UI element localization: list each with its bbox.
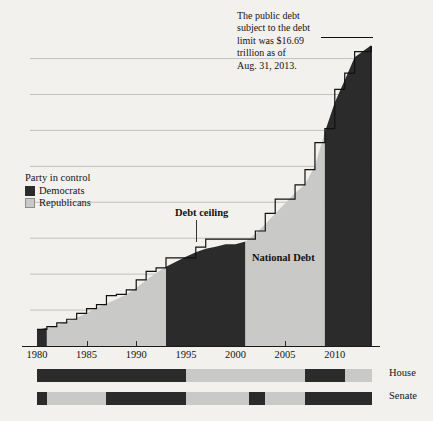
x-axis-tick	[37, 341, 38, 346]
senate-control-bar-label: Senate	[389, 390, 417, 401]
debt-ceiling-leader-line	[196, 220, 197, 242]
callout-leader-line	[321, 37, 373, 38]
control-segment-democrats	[305, 369, 345, 382]
legend: Party in control Democrats Republicans	[25, 172, 91, 209]
x-axis-label: 2000	[216, 349, 256, 360]
x-axis-line	[22, 346, 380, 347]
legend-title: Party in control	[25, 172, 91, 184]
debt-ceiling-label: Debt ceiling	[175, 207, 228, 218]
legend-swatch-democrats	[25, 186, 35, 196]
control-segment-democrats	[37, 369, 186, 382]
y-axis: In trillions $0$2$4$6$8$10$12$14$16	[372, 0, 433, 421]
x-axis-label: 2010	[315, 349, 355, 360]
x-axis-label: 1980	[17, 349, 57, 360]
callout-line-1: The public debt	[237, 10, 333, 22]
presidency-band-republicans	[245, 37, 324, 346]
control-segment-republicans	[186, 369, 305, 382]
callout-line-2: subject to the debt	[237, 22, 333, 34]
chart-figure: In trillions $0$2$4$6$8$10$12$14$16 1980…	[0, 0, 433, 421]
x-axis-tick	[87, 341, 88, 346]
control-segment-republicans	[345, 369, 372, 382]
x-axis-label: 1990	[116, 349, 156, 360]
callout-line-3: limit was $16.69	[237, 35, 333, 47]
callout-line-5: Aug. 31, 2013.	[237, 60, 333, 72]
x-axis-tick	[285, 341, 286, 346]
legend-item-democrats: Democrats	[25, 185, 91, 197]
national-debt-label: National Debt	[252, 252, 315, 263]
legend-item-republicans: Republicans	[25, 197, 91, 209]
legend-label-republicans: Republicans	[39, 197, 91, 209]
house-control-bar	[30, 369, 372, 382]
callout-line-4: trillion as of	[237, 47, 333, 59]
x-axis-label: 1985	[67, 349, 107, 360]
x-axis-label: 1995	[166, 349, 206, 360]
control-segment-republicans	[47, 392, 107, 405]
control-segment-democrats	[249, 392, 265, 405]
senate-control-bar	[30, 392, 372, 405]
x-axis-tick	[186, 341, 187, 346]
control-segment-democrats	[305, 392, 372, 405]
control-segment-republicans	[186, 392, 250, 405]
control-segment-democrats	[37, 392, 47, 405]
presidency-band-democrats	[166, 37, 245, 346]
x-axis-tick	[236, 341, 237, 346]
legend-swatch-republicans	[25, 198, 35, 208]
x-axis-label: 2005	[265, 349, 305, 360]
x-axis-tick	[335, 341, 336, 346]
x-axis-tick	[136, 341, 137, 346]
control-segment-democrats	[106, 392, 185, 405]
legend-label-democrats: Democrats	[39, 185, 84, 197]
control-segment-republicans	[265, 392, 305, 405]
debt-limit-callout: The public debt subject to the debt limi…	[237, 10, 333, 72]
house-control-bar-label: House	[389, 367, 416, 378]
presidency-band-democrats	[325, 37, 372, 346]
